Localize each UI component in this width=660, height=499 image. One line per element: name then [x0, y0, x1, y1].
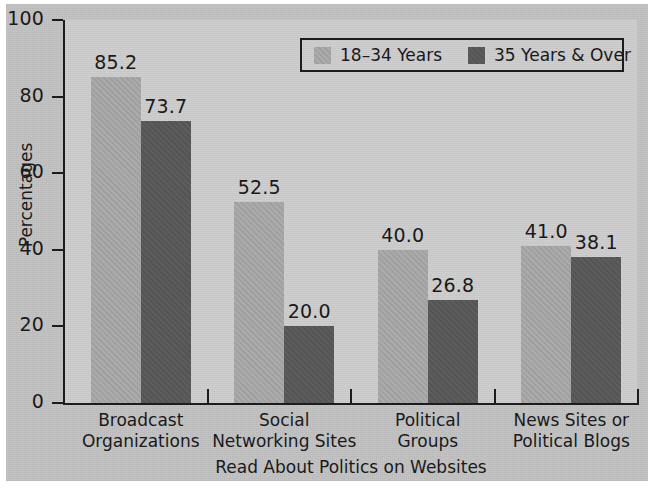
y-axis-tick: [52, 172, 63, 174]
y-axis-tick: [52, 249, 63, 251]
x-axis-tick: [637, 389, 639, 403]
x-axis-tick: [494, 389, 496, 403]
legend-label: 18–34 Years: [340, 45, 442, 65]
category-label-line: News Sites or: [491, 410, 651, 431]
category-label-line: Networking Sites: [204, 431, 364, 452]
y-axis-tick-label: 0: [32, 390, 44, 412]
bar-chart-figure: 020406080100 Percentages 85.273.752.520.…: [0, 0, 660, 499]
legend-label: 35 Years & Over: [494, 45, 631, 65]
bar-value-label: 52.5: [229, 176, 289, 198]
bar: [284, 326, 334, 403]
y-axis-tick-label: 100: [7, 7, 44, 29]
category-label-line: Organizations: [61, 431, 221, 452]
category-label-line: Political: [348, 410, 508, 431]
bar-value-label: 26.8: [423, 274, 483, 296]
legend-swatch-icon: [314, 47, 331, 64]
x-axis-tick: [207, 389, 209, 403]
bar-value-label: 40.0: [373, 224, 433, 246]
bar-value-label: 20.0: [279, 300, 339, 322]
y-axis-tick-label: 20: [19, 313, 44, 335]
x-axis-category-label: SocialNetworking Sites: [204, 410, 364, 452]
y-axis-tick: [52, 325, 63, 327]
y-axis-tick: [52, 19, 63, 21]
x-axis-category-label: News Sites orPolitical Blogs: [491, 410, 651, 452]
category-label-line: Political Blogs: [491, 431, 651, 452]
bar: [378, 250, 428, 403]
category-label-line: Groups: [348, 431, 508, 452]
bar-value-label: 73.7: [136, 95, 196, 117]
bar: [571, 257, 621, 403]
bar-value-label: 38.1: [566, 231, 626, 253]
bar-value-label: 85.2: [86, 51, 146, 73]
category-label-line: Social: [204, 410, 364, 431]
y-axis-tick: [52, 96, 63, 98]
y-axis-label: Percentages: [16, 125, 36, 265]
bar: [234, 202, 284, 403]
y-axis-tick: [52, 402, 63, 404]
x-axis-category-label: BroadcastOrganizations: [61, 410, 221, 452]
bar: [428, 300, 478, 403]
x-axis-category-label: PoliticalGroups: [348, 410, 508, 452]
y-axis-tick-label: 80: [19, 84, 44, 106]
legend: 18–34 Years35 Years & Over: [300, 38, 624, 72]
x-axis-tick: [350, 389, 352, 403]
y-axis-line: [63, 20, 65, 405]
x-axis-line: [63, 403, 639, 405]
bar: [521, 246, 571, 403]
bar: [141, 121, 191, 403]
legend-entry: 35 Years & Over: [468, 40, 631, 70]
bar: [91, 77, 141, 403]
category-label-line: Broadcast: [61, 410, 221, 431]
x-axis-label: Read About Politics on Websites: [63, 457, 639, 477]
legend-swatch-icon: [468, 47, 485, 64]
legend-entry: 18–34 Years: [314, 40, 442, 70]
